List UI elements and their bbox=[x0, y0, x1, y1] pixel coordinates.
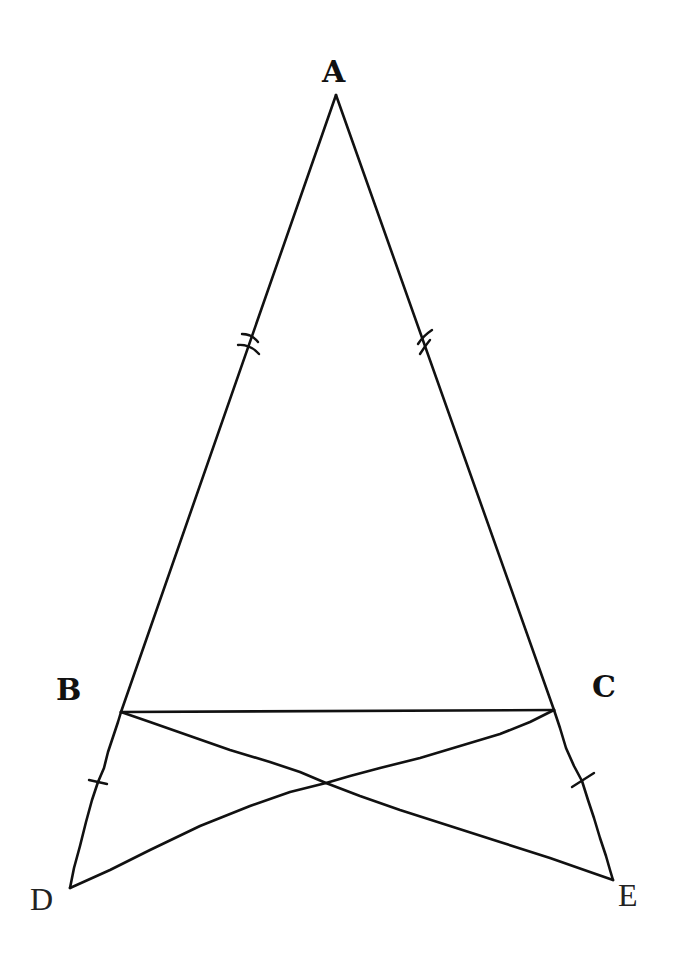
label-e: E bbox=[618, 877, 638, 913]
segment-ab bbox=[121, 95, 336, 712]
label-b: B bbox=[56, 672, 81, 707]
segment-be bbox=[121, 712, 613, 880]
segment-ac bbox=[336, 95, 554, 710]
segment-cd bbox=[70, 710, 554, 888]
label-d: D bbox=[30, 881, 53, 917]
segment-ce bbox=[554, 710, 613, 880]
segment-bc bbox=[121, 710, 554, 712]
label-a: A bbox=[321, 54, 346, 89]
label-c: C bbox=[592, 669, 616, 704]
segment-bd bbox=[70, 712, 121, 888]
triangle-diagram: A B C D E bbox=[0, 0, 675, 969]
